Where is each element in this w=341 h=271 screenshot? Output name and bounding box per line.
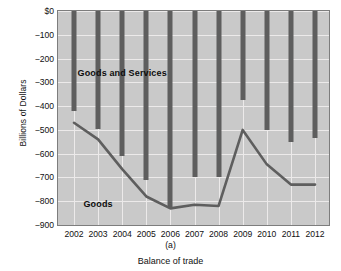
series-annotation: Goods (83, 199, 112, 209)
y-tick-label: $0 (10, 6, 54, 16)
y-tick-label: −700 (10, 172, 54, 182)
y-tick-label: −300 (10, 77, 54, 87)
grid-line-horizontal (58, 225, 329, 226)
y-tick-label: −600 (10, 149, 54, 159)
y-tick-label: −400 (10, 101, 54, 111)
series-annotation: Goods and Services (78, 68, 167, 78)
y-tick-label: −900 (10, 220, 54, 230)
y-tick-label: −500 (10, 125, 54, 135)
line-goods (58, 11, 329, 225)
panel-label: (a) (0, 240, 341, 250)
y-tick-label: −800 (10, 196, 54, 206)
plot-area: Goods and ServicesGoods (57, 10, 330, 226)
y-tick-label: −200 (10, 54, 54, 64)
plot-inner: Goods and ServicesGoods (58, 11, 329, 225)
x-axis-title: Balance of trade (0, 256, 341, 266)
chart-figure: Billions of Dollars Goods and ServicesGo… (0, 0, 341, 271)
x-tick-label: 2012 (295, 229, 335, 239)
y-tick-label: −100 (10, 30, 54, 40)
